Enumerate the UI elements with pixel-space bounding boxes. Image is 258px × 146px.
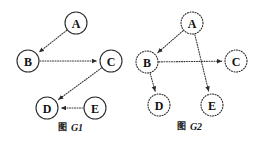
edge-g1-a-to-b xyxy=(39,30,66,52)
edge-g2-a-to-b xyxy=(158,31,183,53)
node-label: C xyxy=(232,55,241,69)
node-g2-d: D xyxy=(148,94,170,116)
edge-g2-a-to-e xyxy=(195,35,209,91)
caption-name: G2 xyxy=(190,121,202,132)
caption-prefix-cjk: 图 xyxy=(177,121,186,131)
edge-g1-c-to-d xyxy=(59,68,102,99)
edge-g2-b-to-c xyxy=(159,61,222,62)
caption-name: G1 xyxy=(71,122,83,133)
node-g2-b: B xyxy=(136,51,158,73)
node-g1-a: A xyxy=(65,12,87,34)
graph-caption-g2: 图G2 xyxy=(177,121,203,132)
edges-layer xyxy=(39,30,221,108)
node-label: B xyxy=(24,55,32,69)
figure-root: ABCDEABCDE 图G1图G2 xyxy=(0,0,258,146)
graph-canvas: ABCDEABCDE 图G1图G2 xyxy=(0,0,258,146)
node-label: C xyxy=(107,55,116,69)
node-label: B xyxy=(143,56,151,70)
nodes-layer: ABCDEABCDE xyxy=(17,12,247,119)
node-g2-c: C xyxy=(225,50,247,72)
node-g2-a: A xyxy=(181,12,203,34)
node-label: D xyxy=(155,99,164,113)
node-label: D xyxy=(43,102,52,116)
node-label: A xyxy=(72,17,81,31)
node-g1-e: E xyxy=(84,97,106,119)
edge-g2-b-to-d xyxy=(150,74,155,92)
node-label: E xyxy=(91,102,99,116)
graph-caption-g1: 图G1 xyxy=(58,122,84,133)
caption-prefix-cjk: 图 xyxy=(58,122,67,132)
captions-layer: 图G1图G2 xyxy=(58,121,203,133)
node-g1-d: D xyxy=(36,97,58,119)
node-label: E xyxy=(208,99,216,113)
node-g1-b: B xyxy=(17,50,39,72)
node-g2-e: E xyxy=(201,94,223,116)
node-label: A xyxy=(188,17,197,31)
node-g1-c: C xyxy=(100,50,122,72)
